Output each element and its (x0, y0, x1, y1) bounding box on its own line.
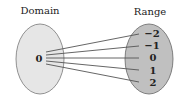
domain-value: 0 (36, 53, 43, 64)
range-label: Range (134, 6, 167, 17)
range-value: 2 (150, 77, 157, 88)
mapping-diagram: Domain Range 0 −2 −1 0 1 2 (0, 0, 186, 101)
range-value: 0 (150, 52, 157, 63)
range-value: −1 (144, 40, 159, 51)
domain-label: Domain (20, 5, 60, 16)
range-value: −2 (144, 28, 159, 39)
range-value: 1 (150, 65, 157, 76)
